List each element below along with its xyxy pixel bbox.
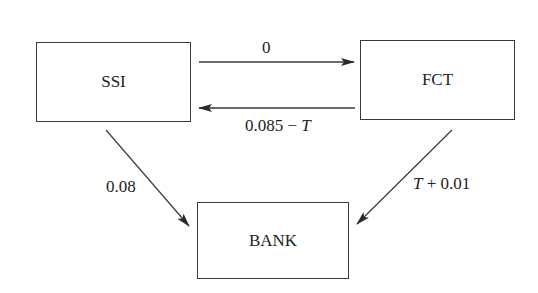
node-bank-label: BANK <box>249 231 297 251</box>
node-bank: BANK <box>197 202 349 279</box>
edge-label-fct-to-ssi: 0.085 − T <box>245 117 311 134</box>
edge-label-fct-to-bank: T + 0.01 <box>413 175 470 192</box>
node-ssi: SSI <box>36 42 191 122</box>
edge-label-ssi-to-bank: 0.08 <box>106 178 136 195</box>
node-fct-label: FCT <box>422 70 453 90</box>
node-fct: FCT <box>360 40 515 120</box>
flow-diagram: SSI FCT BANK 0 0.085 − T 0.08 T + 0.01 <box>0 0 538 293</box>
node-ssi-label: SSI <box>101 72 126 92</box>
edge-label-ssi-to-fct: 0 <box>262 39 271 56</box>
